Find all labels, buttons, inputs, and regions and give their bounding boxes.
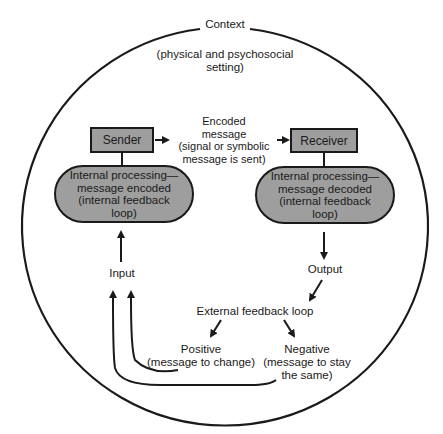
sender-box: Sender [90,127,154,153]
context-title: Context [202,18,248,31]
context-subtitle: (physical and psychosocial setting) [130,48,320,74]
positive-label: Positive (message to change) [145,343,257,369]
input-label: Input [102,267,142,280]
encoded-message-label: Encoded message (signal or symbolic mess… [168,115,280,165]
receiver-box: Receiver [290,128,358,153]
receiver-processing-oval: Internal processing— message decoded (in… [255,166,395,224]
external-feedback-label: External feedback loop [185,305,325,318]
arrow-to-negative [284,320,294,336]
sender-processing-oval: Internal processing— message encoded (in… [54,165,194,223]
negative-label: Negative (message to stay the same) [262,343,352,382]
arrow-output-to-loop [310,280,322,300]
arrow-to-positive [211,320,221,336]
output-label: Output [303,263,347,276]
